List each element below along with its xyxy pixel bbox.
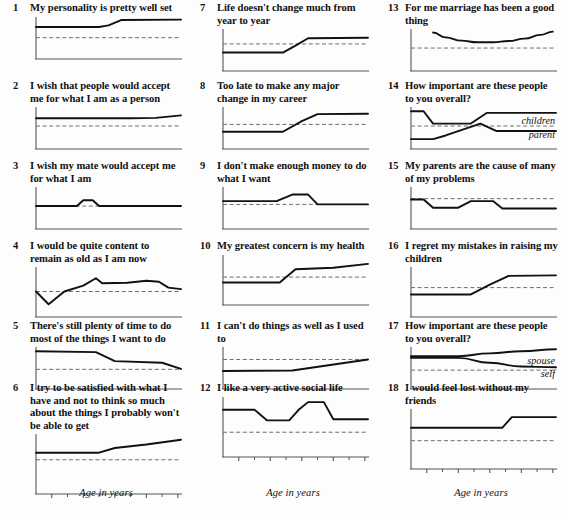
series-line	[411, 417, 556, 428]
series-line	[36, 116, 181, 119]
plot-area-1	[30, 15, 182, 63]
panel-number: 8	[200, 80, 205, 93]
panel-title: I would feel lost without my friends	[405, 382, 558, 407]
series-line	[36, 351, 181, 369]
series-line	[36, 20, 181, 27]
panel-title: Too late to make any major change in my …	[217, 80, 370, 105]
panel-title: My parents are the cause of many of my p…	[405, 160, 558, 185]
panel-12: 12I like a very active social life203040…	[187, 382, 374, 461]
panel-14: 14How important are these people to you …	[375, 80, 562, 153]
panel-header-4: 4I would be quite content to remain as o…	[0, 240, 187, 265]
series-line	[223, 264, 368, 283]
panel-4: 4I would be quite content to remain as o…	[0, 240, 187, 321]
panel-16: 16I regret my mistakes in raising my chi…	[375, 240, 562, 321]
panel-title: I would be quite content to remain as ol…	[30, 240, 183, 265]
plot-area-7	[217, 27, 369, 75]
plot-area-16	[405, 265, 557, 321]
x-axis-label: Age in years	[405, 487, 557, 498]
panel-13: 13For me marriage has been a good thing	[375, 2, 562, 75]
panel-title: I wish my mate would accept me for what …	[30, 160, 183, 185]
panel-header-7: 7Life doesn't change much from year to y…	[187, 2, 374, 27]
panel-10: 10My greatest concern is my health	[187, 240, 374, 309]
panel-header-9: 9I don't make enough money to do what I …	[187, 160, 374, 185]
series-line	[36, 200, 181, 206]
panel-number: 13	[388, 2, 399, 15]
panel-number: 5	[13, 320, 18, 333]
panel-number: 15	[388, 160, 399, 173]
series-line	[223, 195, 368, 205]
panel-title: How important are these people to you ov…	[405, 320, 558, 345]
series-line	[36, 440, 181, 453]
plot-area-2	[30, 105, 182, 153]
panel-header-1: 1My personality is pretty well set	[0, 2, 187, 15]
panel-header-2: 2I wish that people would accept me for …	[0, 80, 187, 105]
panel-title: For me marriage has been a good thing	[405, 2, 558, 27]
plot-area-13	[405, 27, 557, 75]
panel-number: 16	[388, 240, 399, 253]
panel-8: 8Too late to make any major change in my…	[187, 80, 374, 153]
panel-number: 2	[13, 80, 18, 93]
panel-column-3: 13For me marriage has been a good thing1…	[375, 0, 562, 514]
panel-title: I wish that people would accept me for w…	[30, 80, 183, 105]
panel-column-2: 7Life doesn't change much from year to y…	[187, 0, 374, 514]
panel-title: I like a very active social life	[217, 382, 370, 395]
plot-area-12: 2030405060	[217, 395, 369, 461]
panel-number: 4	[13, 240, 18, 253]
panel-2: 2I wish that people would accept me for …	[0, 80, 187, 153]
panel-title: My personality is pretty well set	[30, 2, 183, 15]
panel-number: 7	[200, 2, 205, 15]
panel-3: 3I wish my mate would accept me for what…	[0, 160, 187, 233]
panel-number: 18	[388, 382, 399, 395]
panel-number: 17	[388, 320, 399, 333]
plot-area-10	[217, 253, 369, 309]
panel-7: 7Life doesn't change much from year to y…	[187, 2, 374, 75]
plot-area-18: 2030405060	[405, 407, 557, 473]
panel-header-12: 12I like a very active social life	[187, 382, 374, 395]
series-label-children: children	[521, 115, 555, 126]
panel-header-8: 8Too late to make any major change in my…	[187, 80, 374, 105]
panel-header-14: 14How important are these people to you …	[375, 80, 562, 105]
panel-6: 6I try to be satisfied with what I have …	[0, 382, 187, 498]
panel-number: 11	[200, 320, 210, 333]
series-line	[223, 360, 368, 371]
series-line	[411, 276, 556, 295]
series-label-spouse: spouse	[527, 355, 555, 366]
panel-title: I don't make enough money to do what I w…	[217, 160, 370, 185]
series-line	[433, 32, 553, 43]
panel-1: 1My personality is pretty well set	[0, 2, 187, 63]
series-line	[223, 114, 368, 132]
panel-header-15: 15My parents are the cause of many of my…	[375, 160, 562, 185]
panel-number: 12	[200, 382, 211, 395]
panel-number: 9	[200, 160, 205, 173]
panel-number: 6	[13, 382, 18, 395]
panel-header-11: 11I can't do things as well as I used to	[187, 320, 374, 345]
series-line	[223, 402, 368, 420]
panel-18: 18I would feel lost without my friends20…	[375, 382, 562, 473]
panel-header-5: 5There's still plenty of time to do most…	[0, 320, 187, 345]
panel-15: 15My parents are the cause of many of my…	[375, 160, 562, 233]
panel-title: Life doesn't change much from year to ye…	[217, 2, 370, 27]
panel-header-13: 13For me marriage has been a good thing	[375, 2, 562, 27]
panel-header-3: 3I wish my mate would accept me for what…	[0, 160, 187, 185]
x-axis-label: Age in years	[217, 487, 369, 498]
x-axis-label: Age in years	[30, 487, 182, 498]
plot-area-14: childrenparent	[405, 105, 557, 153]
figure-multipanel-chart: 1My personality is pretty well set2I wis…	[0, 0, 562, 514]
plot-area-3	[30, 185, 182, 233]
series-label-parent: parent	[528, 129, 556, 140]
plot-area-15	[405, 185, 557, 233]
panel-header-18: 18I would feel lost without my friends	[375, 382, 562, 407]
series-line	[411, 200, 556, 209]
panel-header-17: 17How important are these people to you …	[375, 320, 562, 345]
panel-column-1: 1My personality is pretty well set2I wis…	[0, 0, 187, 514]
panel-title: I can't do things as well as I used to	[217, 320, 370, 345]
plot-area-4	[30, 265, 182, 321]
series-line	[223, 38, 368, 53]
series-label-self: self	[541, 368, 556, 379]
panel-title: I regret my mistakes in raising my child…	[405, 240, 558, 265]
panel-title: I try to be satisfied with what I have a…	[30, 382, 183, 432]
panel-header-6: 6I try to be satisfied with what I have …	[0, 382, 187, 432]
panel-title: My greatest concern is my health	[217, 240, 370, 253]
panel-number: 1	[13, 2, 18, 15]
panel-header-16: 16I regret my mistakes in raising my chi…	[375, 240, 562, 265]
